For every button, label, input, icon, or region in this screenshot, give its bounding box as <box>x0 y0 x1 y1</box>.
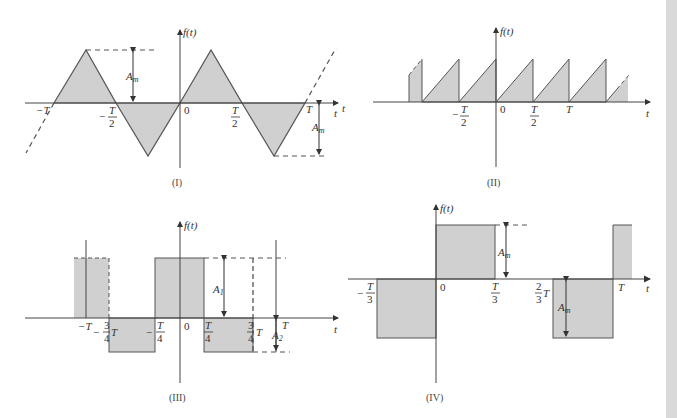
waveform-figure: f(t) t Am Am −T − T 2 0 T 2 T (I) <box>0 0 677 418</box>
tick-zero: 0 <box>440 281 446 293</box>
tick-third-T: T 3 <box>491 280 500 305</box>
y-axis-label: f(t) <box>184 219 198 232</box>
svg-text:T: T <box>111 326 118 338</box>
svg-text:4: 4 <box>248 332 254 344</box>
y-axis-label: f(t) <box>440 202 454 215</box>
tick-neg-half-T: − T 2 <box>452 103 469 128</box>
amplitude-label: Am <box>311 121 325 135</box>
svg-text:3: 3 <box>536 293 542 305</box>
svg-text:2: 2 <box>109 117 115 129</box>
caption-iii: (III) <box>169 392 186 404</box>
tick-T: T <box>566 103 573 115</box>
svg-text:4: 4 <box>104 332 110 344</box>
svg-text:T: T <box>461 103 468 115</box>
tick-neg-T: −T <box>78 320 92 332</box>
caption-iv: (IV) <box>426 392 443 404</box>
tick-T: T <box>282 319 289 331</box>
panel-iv-square-wave: f(t) t Am Am − T 3 0 T 3 2 3 T T (IV) <box>348 202 650 404</box>
svg-text:2: 2 <box>531 116 537 128</box>
svg-text:T: T <box>492 280 499 292</box>
svg-text:2: 2 <box>232 117 238 129</box>
svg-text:T: T <box>256 326 263 338</box>
svg-text:3: 3 <box>248 319 254 331</box>
x-axis-label: t <box>646 107 650 119</box>
svg-text:−: − <box>93 326 99 338</box>
tick-zero: 0 <box>500 103 506 115</box>
panel-iii-square-wave: f(t) t A1 A2 −T − 3 4 T − T 4 0 T 4 3 4 … <box>25 219 338 404</box>
amplitude-label: Am <box>125 70 139 84</box>
panel-ii-sawtooth-wave: f(t) t − T 2 0 T 2 T t (II) <box>342 25 650 189</box>
tick-half-T: T 2 <box>530 103 539 128</box>
svg-text:−: − <box>146 326 152 338</box>
caption-i: (I) <box>172 177 182 189</box>
amplitude-label: Am <box>497 246 511 260</box>
svg-text:T: T <box>232 104 239 116</box>
x-axis-label: t <box>646 282 650 294</box>
t-label-fragment: t <box>342 102 346 114</box>
tick-neg-third-T: − T 3 <box>357 280 375 305</box>
svg-text:−: − <box>99 110 105 122</box>
svg-text:4: 4 <box>157 332 163 344</box>
tick-T: T <box>618 281 625 293</box>
tick-half-T: T 2 <box>231 104 240 129</box>
tick-T: T <box>306 103 313 115</box>
tick-neg-T: −T <box>36 104 50 116</box>
svg-text:3: 3 <box>492 293 498 305</box>
tick-two-thirds-T: 2 3 T <box>535 280 550 305</box>
amplitude-label-a1: A1 <box>212 283 224 297</box>
svg-text:T: T <box>531 103 538 115</box>
x-axis-label: t <box>334 323 338 335</box>
tick-zero: 0 <box>184 104 190 116</box>
svg-text:2: 2 <box>461 116 467 128</box>
tick-three-quarter-T: 3 4 T <box>247 319 263 344</box>
tick-zero: 0 <box>184 320 190 332</box>
svg-text:T: T <box>109 104 116 116</box>
svg-text:T: T <box>205 319 212 331</box>
svg-text:T: T <box>157 319 164 331</box>
svg-text:4: 4 <box>205 332 211 344</box>
x-axis-label: t <box>334 107 338 119</box>
svg-text:−: − <box>357 287 363 299</box>
tick-neg-half-T: − T 2 <box>99 104 117 129</box>
y-axis-label: f(t) <box>500 25 514 38</box>
svg-text:T: T <box>543 287 550 299</box>
svg-text:3: 3 <box>104 319 110 331</box>
caption-ii: (II) <box>487 177 500 189</box>
svg-text:−: − <box>452 108 458 120</box>
panel-i-triangle-wave: f(t) t Am Am −T − T 2 0 T 2 T (I) <box>25 26 338 189</box>
svg-text:2: 2 <box>536 280 542 292</box>
svg-text:T: T <box>367 280 374 292</box>
svg-text:3: 3 <box>367 293 373 305</box>
amplitude-label-a2: A2 <box>271 329 283 343</box>
y-axis-label: f(t) <box>183 26 197 39</box>
